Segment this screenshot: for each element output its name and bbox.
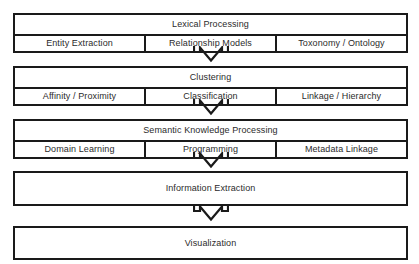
down-arrow-icon-clustering-to-semantic bbox=[193, 99, 229, 117]
stage-title-clustering: Clustering bbox=[15, 68, 406, 87]
pipeline-diagram: Lexical Processing Entity Extraction Rel… bbox=[0, 0, 419, 264]
stage-column-domain-learning: Domain Learning bbox=[15, 142, 144, 157]
down-arrow-icon-semantic-to-information bbox=[193, 152, 229, 170]
down-arrow-icon-information-to-visualization bbox=[193, 205, 229, 223]
stage-column-affinity-proximity: Affinity / Proximity bbox=[15, 89, 144, 104]
stage-title-information-extraction: Information Extraction bbox=[15, 173, 406, 204]
stage-column-linkage-hierarchy: Linkage / Hierarchy bbox=[275, 89, 406, 104]
stage-title-lexical-processing: Lexical Processing bbox=[15, 15, 406, 34]
stage-title-visualization: Visualization bbox=[15, 228, 406, 258]
down-arrow-icon-lexical-to-clustering bbox=[193, 46, 229, 64]
stage-information-extraction: Information Extraction bbox=[13, 171, 408, 206]
stage-title-semantic-knowledge-processing: Semantic Knowledge Processing bbox=[15, 121, 406, 140]
stage-column-metadata-linkage: Metadata Linkage bbox=[275, 142, 406, 157]
stage-visualization: Visualization bbox=[13, 226, 408, 260]
stage-column-entity-extraction: Entity Extraction bbox=[15, 36, 144, 51]
stage-column-toxonomy-ontology: Toxonomy / Ontology bbox=[275, 36, 406, 51]
